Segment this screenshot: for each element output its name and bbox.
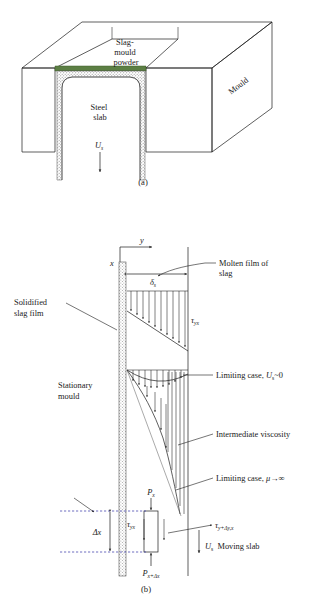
- label-delta-x: Δx: [92, 528, 102, 537]
- label-mould: Mould: [227, 75, 251, 96]
- label-tau-y-dy-x: τy+Δy,x: [215, 521, 234, 531]
- label-solidified-slag-film: Solidified slag film: [14, 298, 49, 318]
- panel-b: y x δs τyx: [14, 236, 291, 594]
- label-film-thickness: δs: [150, 278, 156, 288]
- label-slag-mould-powder: Slag- mould powder: [113, 38, 138, 67]
- steel-slab-outline: [62, 77, 140, 180]
- panel-a: Slag- mould powder Mould Steel slab Us (…: [22, 22, 272, 187]
- label-moving-slab: Us Moving slab: [205, 542, 260, 552]
- mould-front-left-face: [22, 68, 55, 152]
- delta-x-leader: [74, 498, 94, 512]
- label-molten-film-of-slag: Molten film of slag: [219, 259, 270, 278]
- curve-limiting-case-us-zero: [127, 370, 188, 381]
- slag-film-band-a: [57, 71, 145, 180]
- panel-a-tag: (a): [138, 177, 148, 187]
- label-limiting-case-us: Limiting case, Us~0: [216, 371, 283, 381]
- control-volume-element: [144, 511, 158, 552]
- label-stationary-mould: Stationary mould: [58, 381, 95, 401]
- tau-y-dy-x-leader: [168, 525, 212, 533]
- label-tau-yx: τyx: [127, 520, 135, 530]
- axis-label-x: x: [109, 259, 114, 268]
- label-pressure-bottom: Px+Δx: [141, 569, 160, 579]
- intermediate-viscosity-leader: [178, 434, 213, 445]
- axis-label-y: y: [139, 236, 144, 245]
- label-shear-stress-top: τyx: [191, 316, 199, 326]
- label-slab-velocity-a: Us: [95, 141, 103, 151]
- label-intermediate-viscosity: Intermediate viscosity: [216, 430, 291, 439]
- figure-container: Slag- mould powder Mould Steel slab Us (…: [0, 0, 314, 608]
- profile2-arrow-field-upper: [133, 370, 181, 388]
- panel-b-tag: (b): [141, 584, 151, 594]
- solidified-slag-film-leader: [66, 303, 117, 330]
- solidified-slag-film-band: [119, 262, 126, 576]
- label-limiting-case-mu: Limiting case, μ→∞: [216, 474, 285, 483]
- label-steel-slab: Steel slab: [91, 103, 110, 122]
- limiting-case-mu-leader: [176, 478, 213, 490]
- label-pressure-top: Px: [146, 488, 155, 498]
- mould-front-right-face: [146, 68, 212, 152]
